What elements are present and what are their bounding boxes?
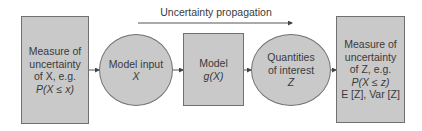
node-quantities-of-interest: Quantities of interest Z [251,34,331,106]
text-line: P(X ≤ x) [36,83,74,96]
node-model: Model g(X) [183,33,244,106]
text-line: Z [288,76,294,89]
node-measure-z: Measure of uncertainty of Z, e.g. P(X ≤ … [336,16,405,123]
node-measure-x: Measure of uncertainty of X, e.g. P(X ≤ … [21,16,89,124]
text-line: E [Z], Var [Z] [341,88,400,101]
text-line: Measure of [344,38,397,51]
text-line: Model [199,57,228,70]
text-line: g(X) [204,70,224,83]
text-line: uncertainty [345,51,396,64]
node-model-input: Model input X [99,34,173,106]
text-line: of X, e.g. [34,70,76,83]
uncertainty-propagation-label: Uncertainty propagation [138,6,294,18]
text-line: uncertainty [29,58,80,71]
text-line: Measure of [29,45,82,58]
text-line: P(X ≤ z) [352,76,390,89]
text-line: Model input [109,58,163,71]
text-line: of Z, e.g. [350,63,391,76]
text-line: X [132,70,139,83]
text-line: of interest [268,64,314,77]
text-line: Quantities [267,51,314,64]
